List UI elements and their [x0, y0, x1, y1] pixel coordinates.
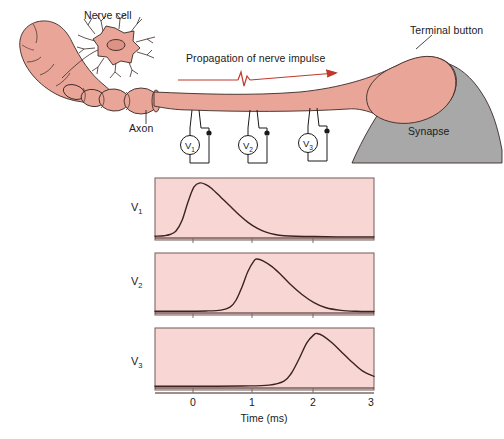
- xtick-label-3: 3: [361, 396, 381, 408]
- label-synapse: Synapse: [408, 125, 450, 137]
- xtick-label-2: 2: [303, 396, 323, 408]
- trace-panel-v1: [155, 178, 374, 243]
- figure-canvas: V1 V2 V3 Nerve cell Axon Propagation of …: [0, 0, 504, 439]
- label-propagation: Propagation of nerve impulse: [186, 52, 325, 64]
- propagation-arrow: [178, 69, 338, 86]
- terminal-button-leader-line: [416, 35, 432, 49]
- label-terminal-button: Terminal button: [410, 24, 483, 36]
- nucleus: [107, 40, 125, 51]
- trace-panel-v2: [155, 253, 374, 318]
- xtick-label-0: 0: [183, 396, 203, 408]
- xtick-label-1: 1: [242, 396, 262, 408]
- x-axis-title: Time (ms): [204, 412, 324, 424]
- voltmeter-v3[interactable]: [299, 108, 330, 161]
- myelin-internodes: [61, 82, 160, 114]
- electrode-dot-v2: [264, 130, 269, 135]
- label-nerve-cell: Nerve cell: [84, 9, 132, 21]
- label-axon: Axon: [129, 122, 153, 134]
- electrode-dot-v1: [206, 130, 211, 135]
- electrode-dot-v3: [324, 128, 329, 133]
- voltmeter-v1[interactable]: [181, 110, 212, 163]
- voltmeter-v2[interactable]: [239, 110, 270, 163]
- trace-panel-v3: [155, 328, 374, 393]
